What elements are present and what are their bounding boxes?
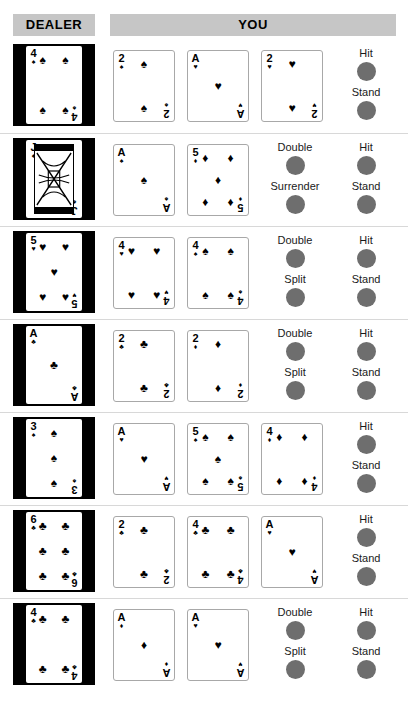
dealer-card: J♠J♠ [26, 140, 82, 218]
action-button-hit[interactable] [357, 528, 376, 547]
card-pip-icon: ♦ [202, 152, 208, 164]
card-pip-icon: ♠ [215, 453, 221, 465]
action-stand[interactable]: Stand [333, 85, 399, 120]
action-button-hit[interactable] [357, 435, 376, 454]
action-button-split[interactable] [286, 660, 305, 679]
card-pips: ♠♠♠♠♠ [197, 428, 239, 490]
you-column-title: YOU [110, 14, 396, 36]
action-button-surrender[interactable] [286, 195, 305, 214]
player-card: A♠A♠♠ [113, 144, 175, 216]
action-hit[interactable]: Hit [333, 140, 399, 175]
card-pip-icon: ♠ [141, 58, 147, 70]
action-button-split[interactable] [286, 288, 305, 307]
action-split[interactable]: Split [262, 272, 328, 307]
action-split[interactable]: Split [262, 644, 328, 679]
action-button-hit[interactable] [357, 62, 376, 81]
card-pip-icon: ♦ [228, 196, 234, 208]
action-button-hit[interactable] [357, 156, 376, 175]
action-button-hit[interactable] [357, 342, 376, 361]
player-card-slot: 4♠4♠♠♠♠♠ [187, 237, 249, 309]
action-button-stand[interactable] [357, 288, 376, 307]
action-column-left: DoubleSplit [262, 605, 328, 683]
card-pip-icon: ♥ [214, 80, 221, 92]
strategy-row: 4♣4♣♣♣♣♣A♦A♦♦A♥A♥♥DoubleSplitHitStand [0, 598, 408, 692]
action-button-stand[interactable] [357, 195, 376, 214]
dealer-card-frame: 4♠4♠♠♠♠♠ [13, 44, 95, 126]
action-label: Hit [333, 140, 399, 154]
player-card: A♥A♥♥ [113, 423, 175, 495]
player-card: 2♥2♥♥♥ [261, 50, 323, 122]
action-button-double[interactable] [286, 621, 305, 640]
card-pip-icon: ♥ [62, 291, 69, 303]
card-pip-icon: ♥ [128, 289, 135, 301]
action-stand[interactable]: Stand [333, 365, 399, 400]
action-button-split[interactable] [286, 381, 305, 400]
action-double[interactable]: Double [262, 233, 328, 268]
action-button-stand[interactable] [357, 474, 376, 493]
card-pip-icon: ♣ [61, 520, 69, 532]
dealer-card-frame: 3♠3♠♠♠♠ [13, 417, 95, 499]
action-button-hit[interactable] [357, 621, 376, 640]
action-surrender[interactable]: Surrender [262, 179, 328, 214]
action-label: Split [262, 272, 328, 286]
card-pip-icon: ♣ [39, 663, 47, 675]
card-pip-icon: ♦ [302, 475, 308, 487]
action-hit[interactable]: Hit [333, 233, 399, 268]
player-card: 4♦4♦♦♦♦♦ [261, 423, 323, 495]
dealer-card-frame: 4♣4♣♣♣♣♣ [13, 603, 95, 685]
action-stand[interactable]: Stand [333, 551, 399, 586]
player-card: 4♥4♥♥♥♥♥ [113, 237, 175, 309]
action-double[interactable]: Double [262, 326, 328, 361]
card-pips: ♦♦ [197, 335, 239, 397]
card-pip-icon: ♥ [39, 291, 46, 303]
player-card: 4♣4♣♣♣♣♣ [187, 516, 249, 588]
action-button-double[interactable] [286, 249, 305, 268]
action-label: Stand [333, 644, 399, 658]
action-label: Double [262, 233, 328, 247]
action-button-double[interactable] [286, 156, 305, 175]
card-pips: ♣ [35, 330, 73, 400]
action-stand[interactable]: Stand [333, 458, 399, 493]
card-pip-icon: ♣ [61, 613, 69, 625]
action-split[interactable]: Split [262, 365, 328, 400]
card-pips: ♠♠♠ [35, 423, 73, 493]
card-pip-icon: ♥ [140, 453, 147, 465]
action-label: Split [262, 644, 328, 658]
player-card-slot: A♠A♠♠ [113, 144, 175, 216]
card-pip-icon: ♦ [202, 196, 208, 208]
player-card-slot: A♦A♦♦ [113, 609, 175, 681]
card-pips: ♠ [123, 149, 165, 211]
card-pip-icon: ♦ [215, 382, 221, 394]
action-button-stand[interactable] [357, 101, 376, 120]
action-stand[interactable]: Stand [333, 644, 399, 679]
action-button-double[interactable] [286, 342, 305, 361]
card-pip-icon: ♦ [215, 338, 221, 350]
dealer-card-frame: A♣A♣♣ [13, 324, 95, 406]
action-hit[interactable]: Hit [333, 605, 399, 640]
card-pip-icon: ♥ [288, 58, 295, 70]
card-pip-icon: ♣ [140, 568, 148, 580]
dealer-card-frame: J♠J♠ [13, 138, 95, 220]
card-pips: ♥ [123, 428, 165, 490]
action-column-right: HitStand [333, 605, 399, 683]
action-stand[interactable]: Stand [333, 179, 399, 214]
action-column-right: HitStand [333, 140, 399, 218]
action-hit[interactable]: Hit [333, 46, 399, 81]
action-stand[interactable]: Stand [333, 272, 399, 307]
action-hit[interactable]: Hit [333, 512, 399, 547]
player-card-slot: A♥A♥♥ [261, 516, 323, 588]
action-button-stand[interactable] [357, 381, 376, 400]
card-pip-icon: ♠ [39, 54, 45, 66]
action-hit[interactable]: Hit [333, 419, 399, 454]
player-card-slot: 2♠2♠♠♠ [113, 50, 175, 122]
card-pips: ♥♥♥♥♥ [35, 237, 73, 307]
action-label: Hit [333, 605, 399, 619]
action-button-hit[interactable] [357, 249, 376, 268]
action-double[interactable]: Double [262, 605, 328, 640]
action-button-stand[interactable] [357, 660, 376, 679]
player-card-slot: A♥A♥♥ [187, 609, 249, 681]
action-double[interactable]: Double [262, 140, 328, 175]
action-hit[interactable]: Hit [333, 326, 399, 361]
action-button-stand[interactable] [357, 567, 376, 586]
action-label: Stand [333, 365, 399, 379]
